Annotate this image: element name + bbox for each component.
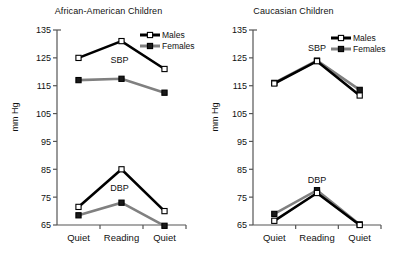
y-tick-label: 95 [41,137,51,147]
plot-area-african-american: 65758595105115125135QuietReadingQuietSBP… [0,0,203,256]
legend-marker-females [338,46,343,51]
data-point-females [119,76,124,81]
series-line-males [274,193,359,225]
y-tick-label: 85 [41,165,51,175]
data-point-males [314,59,319,64]
y-tick-label: 65 [41,220,51,230]
x-axis-category-label: Reading [299,232,334,243]
legend-label-males: Males [353,33,376,43]
legend-marker-females [147,43,152,48]
y-tick-label: 75 [237,193,247,203]
y-tick-label: 75 [41,193,51,203]
panel-african-american: African-American Children mm Hg 65758595… [0,0,203,256]
data-point-females [357,87,362,92]
y-tick-label: 85 [237,165,247,175]
x-axis-category-label: Quiet [263,232,286,243]
data-point-females [76,213,81,218]
data-point-females [76,78,81,83]
data-point-males [272,81,277,86]
x-axis-category-label: Quiet [67,232,90,243]
legend-marker-males [147,32,152,37]
y-tick-label: 105 [232,109,247,119]
group-annotation-sbp: SBP [308,43,326,53]
series-line-males [274,61,359,95]
data-point-males [119,167,124,172]
data-point-females [162,223,167,228]
group-annotation-sbp: SBP [110,55,128,65]
y-tick-label: 125 [36,53,51,63]
legend-label-males: Males [162,30,185,40]
legend-marker-males [338,35,343,40]
plot-area-caucasian: 65758595105115125135QuietReadingQuietSBP… [203,0,406,256]
x-axis-category-label: Quiet [153,232,176,243]
legend-label-females: Females [353,44,386,54]
panel-caucasian: Caucasian Children mm Hg 657585951051151… [203,0,406,256]
data-point-males [272,218,277,223]
data-point-males [162,66,167,71]
data-point-males [119,39,124,44]
y-tick-label: 105 [36,109,51,119]
data-point-males [162,209,167,214]
y-tick-label: 125 [232,53,247,63]
data-point-males [314,190,319,195]
data-point-males [76,204,81,209]
data-point-females [162,90,167,95]
y-tick-label: 115 [233,81,247,91]
legend-label-females: Females [162,41,195,51]
group-annotation-dbp: DBP [308,175,327,185]
data-point-males [76,55,81,60]
x-axis-category-label: Reading [104,232,139,243]
y-tick-label: 65 [237,220,247,230]
y-tick-label: 135 [36,25,51,35]
data-point-females [272,211,277,216]
y-tick-label: 115 [37,81,51,91]
x-axis-category-label: Quiet [348,232,371,243]
data-point-males [357,222,362,227]
data-point-females [119,200,124,205]
group-annotation-dbp: DBP [110,183,129,193]
data-point-males [357,93,362,98]
series-line-females [79,203,165,226]
blood-pressure-figure: African-American Children mm Hg 65758595… [0,0,406,256]
y-tick-label: 135 [232,25,247,35]
y-tick-label: 95 [237,137,247,147]
